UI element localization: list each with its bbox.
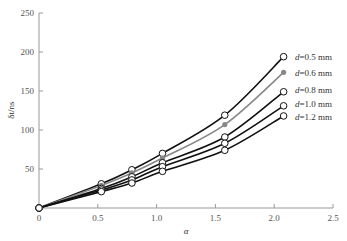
y-tick-label: 200 xyxy=(21,47,35,57)
x-tick-label: 1.5 xyxy=(210,213,222,223)
x-tick-label: 0.5 xyxy=(92,213,104,223)
series-line xyxy=(39,72,284,208)
data-point-open xyxy=(280,88,287,95)
data-point-open xyxy=(280,103,287,110)
series-line xyxy=(39,57,284,208)
data-point-open xyxy=(36,205,43,212)
y-tick-label: 50 xyxy=(25,164,35,174)
x-tick-label: 0 xyxy=(37,213,42,223)
series-1 xyxy=(36,53,287,211)
data-point-open xyxy=(222,134,229,141)
y-axis-label: δt/ns xyxy=(6,101,16,119)
y-tick-label: 100 xyxy=(21,125,35,135)
x-tick-label: 2.5 xyxy=(327,213,339,223)
x-axis-label: α xyxy=(184,226,189,236)
legend-label-3: d=0.8 mm xyxy=(295,85,332,95)
data-point-open xyxy=(222,147,229,154)
data-point-filled xyxy=(281,70,286,75)
x-tick-label: 1.0 xyxy=(151,213,163,223)
data-point-open xyxy=(159,168,166,175)
data-point-open xyxy=(222,140,229,147)
data-point-open xyxy=(98,188,105,195)
legend-label-1: d=0.5 mm xyxy=(295,52,332,62)
data-point-filled xyxy=(222,122,227,127)
data-point-open xyxy=(280,113,287,120)
data-point-open xyxy=(129,180,136,187)
series-lines xyxy=(36,53,287,211)
line-chart: 00.51.01.52.02.550100150200250αδt/ns d=0… xyxy=(0,0,347,241)
legend-label-4: d=1.0 mm xyxy=(295,99,332,109)
legend-label-2: d=0.6 mm xyxy=(295,68,332,78)
series-2 xyxy=(36,70,286,211)
data-point-open xyxy=(280,53,287,60)
y-tick-label: 250 xyxy=(21,8,35,18)
legend: d=0.5 mmd=0.6 mmd=0.8 mmd=1.0 mmd=1.2 mm xyxy=(295,52,332,122)
x-tick-label: 2.0 xyxy=(269,213,281,223)
legend-label-5: d=1.2 mm xyxy=(295,112,332,122)
data-point-open xyxy=(222,112,229,119)
y-tick-label: 150 xyxy=(21,86,35,96)
